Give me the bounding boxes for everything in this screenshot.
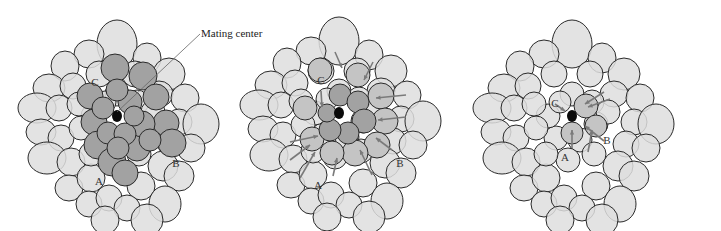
cell <box>313 203 341 231</box>
responding-cell <box>107 137 129 159</box>
cell <box>319 17 359 65</box>
cell-label-a: A <box>95 175 103 187</box>
cell-label-b: B <box>172 157 179 169</box>
cell <box>522 92 546 116</box>
responding-cell <box>112 160 138 186</box>
responding-cell <box>92 97 114 119</box>
diagram-panel-1: CBA <box>18 20 219 231</box>
cell <box>546 206 574 231</box>
responding-cell <box>124 106 144 126</box>
shmooing-cell <box>293 96 317 120</box>
cell <box>534 142 558 166</box>
cell-label-c: C <box>317 74 324 86</box>
panels: CBACBACBA <box>18 17 674 231</box>
responding-cell <box>158 129 186 157</box>
cell-label-c: C <box>91 76 98 88</box>
responding-cell <box>101 54 129 82</box>
cell-label-b: B <box>396 157 403 169</box>
cell <box>541 61 567 87</box>
responding-cell <box>143 84 169 110</box>
cell <box>91 206 119 231</box>
responding-cell <box>139 129 161 151</box>
mating-center-label: Mating center <box>201 27 262 39</box>
cell <box>632 134 660 162</box>
cell <box>552 20 592 68</box>
responding-cell <box>319 119 341 141</box>
shmooing-cell <box>320 141 344 165</box>
cell <box>353 201 385 231</box>
responding-cell <box>106 79 128 101</box>
mating-center-diagram: CBACBACBA <box>0 0 721 231</box>
cell <box>586 204 618 231</box>
cell-label-a: A <box>314 179 322 191</box>
diagram-panel-3: CBA <box>473 20 674 231</box>
cell <box>399 131 427 159</box>
responding-cell <box>318 104 336 122</box>
cell-label-c: C <box>551 97 558 109</box>
mating-center-dot <box>567 110 577 122</box>
cell <box>131 204 163 231</box>
cell-label-b: B <box>603 134 610 146</box>
mating-center-dot <box>334 107 344 119</box>
cell <box>524 116 548 140</box>
cell <box>577 61 603 87</box>
diagram-panel-2: CBA <box>240 17 441 231</box>
cell-label-a: A <box>561 151 569 163</box>
